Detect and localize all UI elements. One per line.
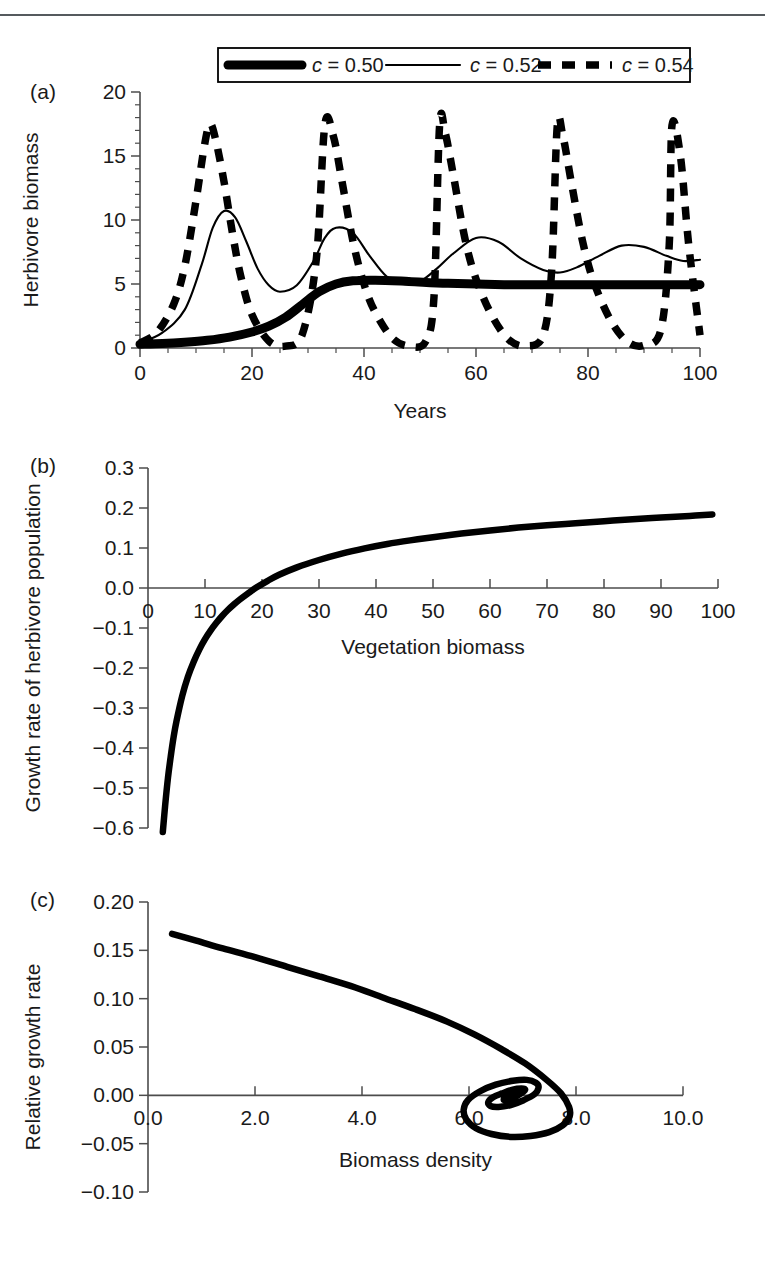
- panel-b-ytick-label: −0.5: [93, 776, 134, 799]
- panel-c-xaxis-title: Biomass density: [339, 1148, 492, 1171]
- legend-label-2: c = 0.52: [470, 54, 542, 76]
- panel-b-xtick-label: 40: [364, 599, 387, 622]
- panel-b-xtick-label: 50: [421, 599, 444, 622]
- panel-b-ytick-label: −0.6: [93, 816, 134, 839]
- panel-b-xtick-label: 90: [649, 599, 672, 622]
- panel-c-ytick-label: 0.20: [93, 890, 134, 913]
- panel-a-series-3: [140, 113, 700, 347]
- panel-a-xaxis-title: Years: [394, 399, 447, 422]
- panel-b-chart: 0.30.20.10.0−0.1−0.2−0.3−0.4−0.5−0.60102…: [0, 432, 765, 862]
- panel-c-xtick-label: 0.0: [133, 1106, 162, 1129]
- panel-a-ytick-label: 15: [103, 144, 126, 167]
- panel-c-xtick-label: 10.0: [663, 1106, 704, 1129]
- legend-label-3: c = 0.54: [622, 54, 694, 76]
- panel-b-xtick-label: 70: [535, 599, 558, 622]
- panel-a-ytick-label: 5: [114, 272, 126, 295]
- panel-c-ytick-label: −0.05: [81, 1132, 134, 1155]
- panel-a-ytick-label: 20: [103, 80, 126, 103]
- panel-c-xtick-label: 4.0: [347, 1106, 376, 1129]
- panel-b-xaxis-title: Vegetation biomass: [341, 635, 524, 658]
- panel-b-ytick-label: 0.2: [105, 496, 134, 519]
- panel-b-xtick-label: 80: [592, 599, 615, 622]
- panel-c-ytick-label: 0.15: [93, 938, 134, 961]
- panel-b-ytick-label: −0.3: [93, 696, 134, 719]
- panel-a-chart: 05101520020406080100YearsHerbivore bioma…: [0, 44, 765, 444]
- panel-a-xtick-label: 0: [134, 361, 146, 384]
- legend-label-value-3: = 0.54: [632, 54, 694, 76]
- panel-b-xtick-label: 20: [250, 599, 273, 622]
- panel-a: (a) 05101520020406080100YearsHerbivore b…: [0, 44, 765, 444]
- panel-c-equilibrium-point: [510, 1091, 518, 1099]
- panel-b-xtick-label: 60: [478, 599, 501, 622]
- panel-a-xtick-label: 40: [352, 361, 375, 384]
- panel-b-ytick-label: 0.3: [105, 456, 134, 479]
- panel-b-xtick-label: 10: [193, 599, 216, 622]
- panel-a-ytick-label: 0: [114, 336, 126, 359]
- panel-b-series-1: [163, 514, 712, 832]
- panel-b-ytick-label: −0.1: [93, 616, 134, 639]
- figure-sheet: (a) 05101520020406080100YearsHerbivore b…: [0, 0, 765, 1277]
- panel-a-yaxis-title: Herbivore biomass: [19, 132, 42, 307]
- legend-label-value-2: = 0.52: [480, 54, 542, 76]
- panel-a-xtick-label: 100: [682, 361, 717, 384]
- panel-b-ytick-label: 0.0: [105, 576, 134, 599]
- panel-b: (b) 0.30.20.10.0−0.1−0.2−0.3−0.4−0.5−0.6…: [0, 432, 765, 862]
- panel-a-axes: [140, 92, 700, 348]
- panel-a-series-2: [140, 211, 700, 343]
- panel-a-xtick-label: 60: [464, 361, 487, 384]
- legend-label-value-1: = 0.50: [322, 54, 384, 76]
- panel-c: (c) 0.200.150.100.050.00−0.05−0.100.02.0…: [0, 862, 765, 1262]
- panel-b-yaxis-title: Growth rate of herbivore population: [21, 483, 44, 812]
- panel-b-ytick-label: 0.1: [105, 536, 134, 559]
- panel-c-ytick-label: 0.10: [93, 987, 134, 1010]
- panel-a-xtick-label: 80: [576, 361, 599, 384]
- page-top-rule: [0, 14, 765, 16]
- panel-c-xtick-label: 2.0: [240, 1106, 269, 1129]
- panel-b-ytick-label: −0.4: [93, 736, 135, 759]
- panel-a-ytick-label: 10: [103, 208, 126, 231]
- panel-a-xtick-label: 20: [240, 361, 263, 384]
- legend-label-1: c = 0.50: [312, 54, 384, 76]
- panel-c-ytick-label: 0.00: [93, 1083, 134, 1106]
- panel-b-xtick-label: 30: [307, 599, 330, 622]
- panel-b-xtick-label: 100: [700, 599, 735, 622]
- panel-b-ytick-label: −0.2: [93, 656, 134, 679]
- panel-c-ytick-label: 0.05: [93, 1035, 134, 1058]
- panel-c-chart: 0.200.150.100.050.00−0.05−0.100.02.04.06…: [0, 862, 765, 1262]
- panel-c-yaxis-title: Relative growth rate: [21, 964, 44, 1151]
- panel-b-xtick-label: 0: [142, 599, 154, 622]
- panel-c-ytick-label: −0.10: [81, 1180, 134, 1203]
